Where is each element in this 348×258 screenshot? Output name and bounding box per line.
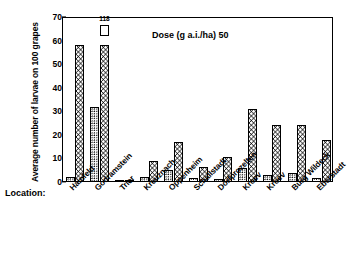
x-axis-location-label: Location: xyxy=(5,188,46,198)
bar-group xyxy=(140,17,159,182)
y-tick-label-70: 70 xyxy=(40,12,62,22)
y-axis-title: Average number of larvae on 100 grapes xyxy=(30,12,40,192)
dose-annotation: Dose (g a.i./ha) 50 xyxy=(152,30,229,40)
bar-group xyxy=(66,17,85,182)
bar-group xyxy=(263,17,282,182)
y-tick-label-10: 10 xyxy=(40,153,62,163)
y-tick-label-60: 60 xyxy=(40,36,62,46)
bar-group xyxy=(90,17,109,182)
bar-group xyxy=(164,17,183,182)
y-tick-label-20: 20 xyxy=(40,130,62,140)
overflow-value-label: 118 xyxy=(95,15,114,22)
bar-chart-figure: Average number of larvae on 100 grapes 7… xyxy=(0,0,348,258)
overflow-bar-cap xyxy=(100,25,109,36)
y-tick-label-50: 50 xyxy=(40,59,62,69)
y-tick-label-40: 40 xyxy=(40,83,62,93)
bar-group xyxy=(288,17,307,182)
bar-control xyxy=(100,45,109,182)
bar-control xyxy=(75,45,84,182)
y-tick-label-30: 30 xyxy=(40,106,62,116)
y-tick-label-0: 0 xyxy=(40,177,62,187)
